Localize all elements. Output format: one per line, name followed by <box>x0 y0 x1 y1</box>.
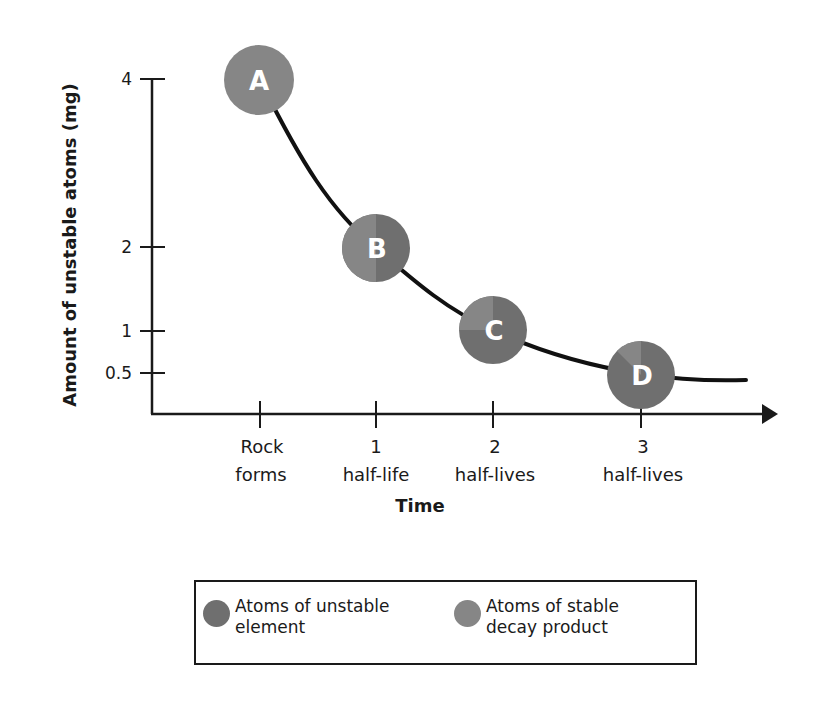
x-tick-label: forms <box>235 464 286 485</box>
point-a: A <box>224 45 294 115</box>
y-axis-title: Amount of unstable atoms (mg) <box>59 83 80 407</box>
point-label: A <box>249 66 269 96</box>
y-tick-label: 0.5 <box>105 363 132 383</box>
legend: Atoms of unstable element Atoms of stabl… <box>194 580 697 665</box>
legend-item-stable: Atoms of stable decay product <box>454 596 619 638</box>
x-tick-label: half-lives <box>455 464 535 485</box>
point-label: D <box>631 361 653 391</box>
x-tick-label: 3 <box>637 436 648 457</box>
point-b: B <box>342 214 410 282</box>
y-tick-label: 4 <box>121 69 132 89</box>
stable-swatch-icon <box>454 600 481 627</box>
point-label: B <box>367 234 387 264</box>
legend-label-stable: Atoms of stable decay product <box>486 596 619 638</box>
x-tick-label: half-lives <box>603 464 683 485</box>
point-d: D <box>607 341 675 409</box>
unstable-swatch-icon <box>203 600 230 627</box>
legend-item-unstable: Atoms of unstable element <box>203 596 389 638</box>
x-axis-arrow-icon <box>762 404 778 424</box>
x-axis-title: Time <box>395 495 444 516</box>
legend-label-unstable: Atoms of unstable element <box>235 596 389 638</box>
x-tick-label: half-life <box>343 464 410 485</box>
y-tick-label: 1 <box>121 321 132 341</box>
point-c: C <box>459 296 527 364</box>
y-tick-label: 2 <box>121 237 132 257</box>
x-tick-label: Rock <box>240 436 284 457</box>
x-tick-label: 1 <box>370 436 381 457</box>
point-label: C <box>484 316 503 346</box>
x-tick-label: 2 <box>489 436 500 457</box>
